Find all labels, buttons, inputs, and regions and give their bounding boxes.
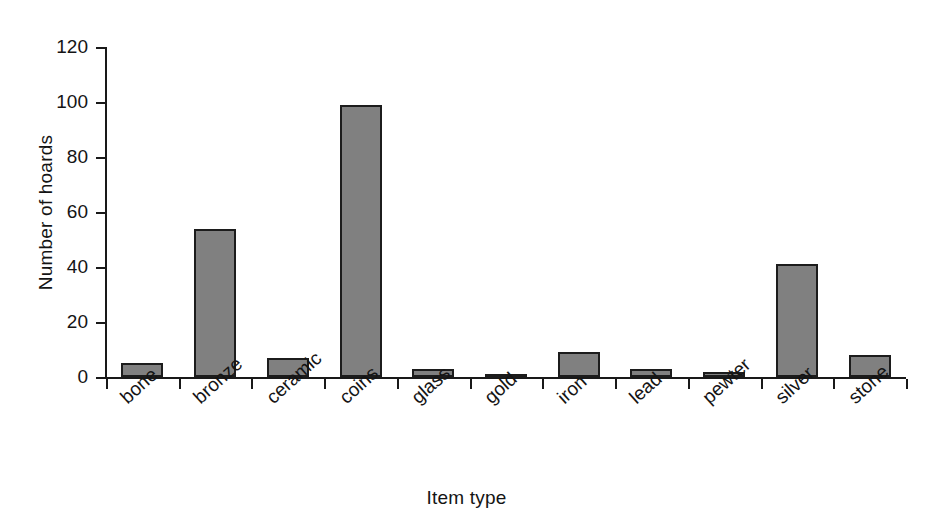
x-tick-glass — [397, 379, 399, 389]
x-tick-silver — [761, 379, 763, 389]
x-tick-coins — [324, 379, 326, 389]
bar-chart: Number of hoards 0 20 40 60 80 100 120 b… — [0, 0, 933, 531]
x-tick-stone — [833, 379, 835, 389]
x-axis-title: Item type — [0, 487, 933, 509]
bar-silver — [776, 264, 818, 377]
x-tick-iron — [542, 379, 544, 389]
x-tick-pewter — [688, 379, 690, 389]
x-tick-bone — [106, 379, 108, 389]
x-tick-lead — [615, 379, 617, 389]
x-tick-gold — [470, 379, 472, 389]
bar-coins — [340, 105, 382, 377]
x-tick-bronze — [179, 379, 181, 389]
x-tick-end — [906, 379, 908, 389]
x-axis-label-ceramic: ceramic — [262, 347, 326, 408]
x-axis-label-pewter: pewter — [698, 354, 755, 409]
x-tick-ceramic — [251, 379, 253, 389]
bars-layer: bonebronzeceramiccoinsglassgoldironleadp… — [0, 0, 933, 531]
